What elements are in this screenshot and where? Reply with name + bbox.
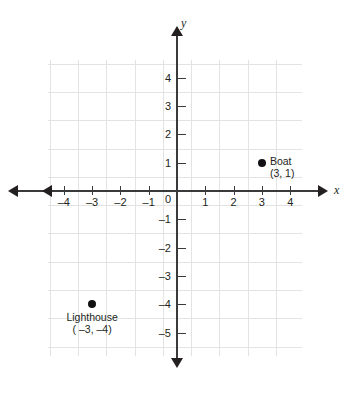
y-tick-label: –5	[153, 327, 171, 338]
x-tick-label: 0	[165, 194, 171, 205]
x-tick-label: –1	[143, 197, 155, 208]
gridline-horizontal	[48, 290, 302, 291]
y-axis-down-arrow-icon	[171, 358, 183, 368]
gridline-horizontal	[48, 64, 302, 65]
y-tick-mark	[177, 219, 186, 220]
data-point-lighthouse-label: Lighthouse ( –3, –4)	[66, 311, 117, 335]
x-tick-label: 1	[202, 197, 208, 208]
data-point-boat-label: Boat (3, 1)	[270, 155, 295, 179]
gridline-vertical	[50, 60, 51, 356]
gridline-horizontal	[48, 262, 302, 263]
x-tick-mark	[205, 186, 206, 195]
x-tick-mark	[290, 186, 291, 195]
gridline-vertical	[135, 60, 136, 356]
gridline-horizontal	[48, 92, 302, 93]
y-tick-mark	[177, 134, 186, 135]
x-tick-label: –4	[58, 197, 70, 208]
x-axis-label: x	[334, 183, 339, 198]
gridline-horizontal	[48, 347, 302, 348]
y-tick-mark	[177, 333, 186, 334]
gridline-vertical	[191, 60, 192, 356]
y-axis-line	[176, 32, 178, 362]
gridline-horizontal	[48, 120, 302, 121]
y-tick-label: –2	[153, 242, 171, 253]
x-axis-line	[14, 190, 326, 192]
y-tick-mark	[177, 276, 186, 277]
y-tick-label: 4	[153, 72, 171, 83]
data-point-lighthouse	[88, 300, 96, 308]
gridline-vertical	[276, 60, 277, 356]
y-tick-mark	[177, 163, 186, 164]
x-tick-label: 4	[287, 197, 293, 208]
gridline-vertical	[219, 60, 220, 356]
y-tick-mark	[177, 106, 186, 107]
boat-label-name: Boat	[270, 155, 295, 167]
boat-label-coords: (3, 1)	[270, 167, 295, 179]
y-tick-mark	[177, 78, 186, 79]
x-tick-mark	[120, 186, 121, 195]
x-tick-label: –3	[86, 197, 98, 208]
gridline-horizontal	[48, 177, 302, 178]
y-axis-label: y	[181, 16, 186, 31]
x-tick-mark	[262, 186, 263, 195]
x-tick-label: –2	[114, 197, 126, 208]
y-tick-label: 1	[153, 157, 171, 168]
x-tick-mark	[149, 186, 150, 195]
x-axis-left-arrow-outer-icon	[8, 185, 18, 197]
coordinate-plane-figure: x y –4–3–2–1012344321–1–2–3–4–5 Boat (3,…	[0, 0, 354, 395]
gridline-horizontal	[48, 233, 302, 234]
gridline-vertical	[248, 60, 249, 356]
y-tick-label: –3	[153, 270, 171, 281]
gridline-horizontal	[48, 149, 302, 150]
y-tick-label: –4	[153, 299, 171, 310]
x-tick-mark	[92, 186, 93, 195]
y-tick-mark	[177, 304, 186, 305]
x-tick-mark	[64, 186, 65, 195]
y-tick-label: –1	[153, 214, 171, 225]
x-tick-label: 2	[231, 197, 237, 208]
y-tick-label: 3	[153, 101, 171, 112]
x-tick-mark	[234, 186, 235, 195]
lighthouse-label-coords: ( –3, –4)	[66, 323, 117, 335]
lighthouse-label-name: Lighthouse	[66, 311, 117, 323]
x-axis-left-arrow-inner-icon	[42, 185, 52, 197]
y-tick-mark	[177, 248, 186, 249]
x-axis-right-arrow-icon	[318, 185, 328, 197]
y-tick-label: 2	[153, 129, 171, 140]
data-point-boat	[258, 159, 266, 167]
x-tick-label: 3	[259, 197, 265, 208]
